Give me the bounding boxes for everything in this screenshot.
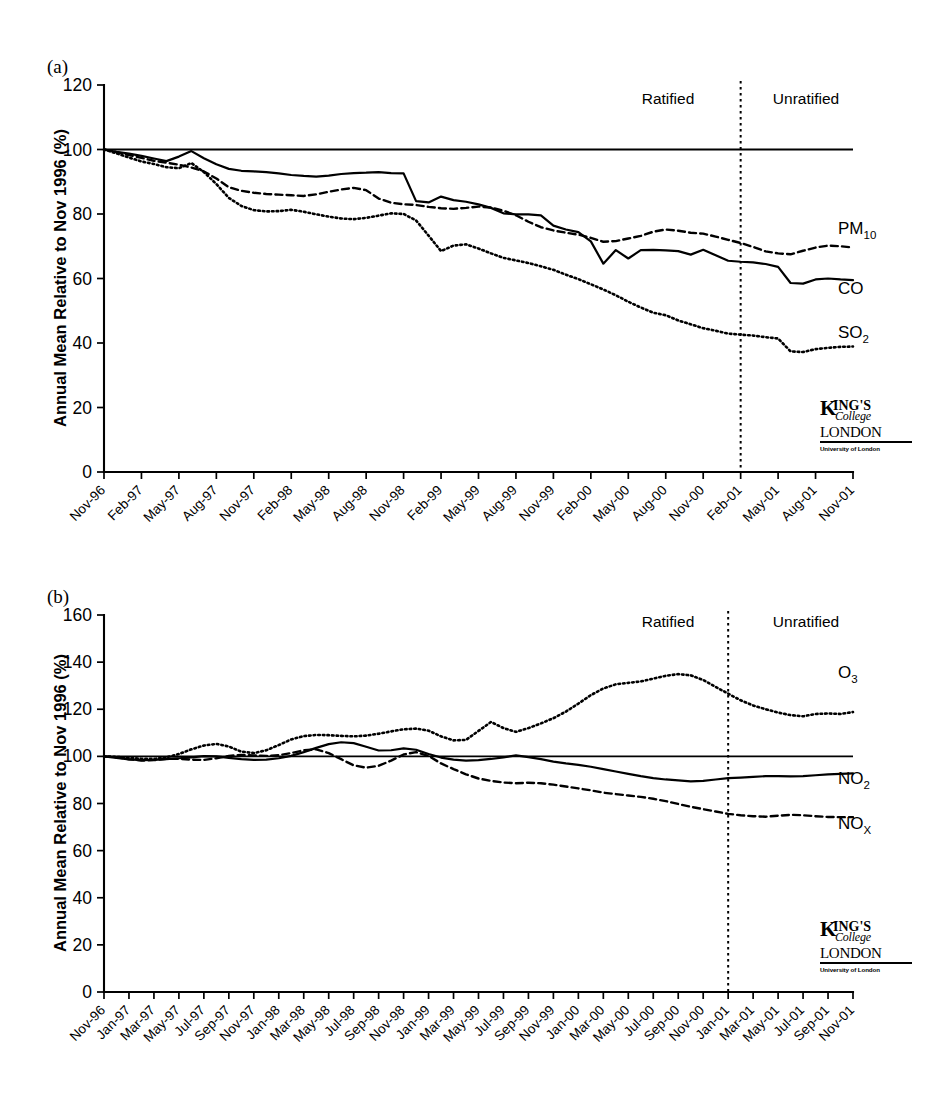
x-axis-tick-label: May-97 [141, 483, 183, 525]
chart-panel-a: (a)020406080100120Annual Mean Relative t… [0, 0, 928, 570]
x-axis-tick-label: Nov-98 [366, 483, 407, 524]
chart-a-canvas: (a)020406080100120Annual Mean Relative t… [0, 0, 928, 570]
x-axis-tick-label: May-01 [740, 483, 782, 525]
region-label-ratified: Ratified [642, 90, 695, 107]
x-axis-tick-label: Aug-01 [778, 483, 819, 524]
figure-root: (a)020406080100120Annual Mean Relative t… [0, 0, 928, 1103]
series-label-so2: SO2 [838, 323, 869, 345]
y-axis-tick-label: 20 [73, 398, 93, 418]
series-line-o3 [104, 674, 853, 759]
y-axis-tick-label: 60 [73, 841, 93, 861]
series-line-no2 [104, 742, 853, 781]
y-axis-tick-label: 160 [63, 605, 92, 625]
logo-london-text: LONDON [820, 425, 912, 443]
logo-university-text: University of London [820, 446, 912, 452]
y-axis-title: Annual Mean Relative to Nov 1996 (%) [51, 129, 69, 427]
x-axis-tick-label: May-99 [440, 483, 482, 525]
logo-college-text: College [835, 931, 871, 943]
y-axis-tick-label: 120 [63, 75, 92, 95]
series-label-no2: NO2 [838, 769, 870, 791]
series-label-co: CO [838, 279, 864, 298]
logo-london-text: LONDON [820, 946, 912, 964]
kings-college-london-logo-a: K ING'S College LONDON University of Lon… [820, 399, 912, 452]
x-axis-tick-label: May-98 [290, 483, 332, 525]
series-label-o3: O3 [838, 663, 858, 685]
y-axis-tick-label: 80 [73, 794, 93, 814]
x-axis-tick-label: Feb-01 [704, 483, 745, 524]
x-axis-tick-label: May-00 [590, 483, 632, 525]
region-label-unratified: Unratified [773, 613, 839, 630]
kings-college-london-logo-b: K ING'S College LONDON University of Lon… [820, 920, 912, 973]
x-axis-tick-label: Nov-97 [217, 483, 258, 524]
x-axis-tick-label: Nov-96 [67, 483, 108, 524]
series-line-co [104, 150, 853, 284]
region-label-unratified: Unratified [773, 90, 839, 107]
chart-b-canvas: (b)020406080100120140160Annual Mean Rela… [0, 535, 928, 1103]
logo-college-text: College [835, 410, 871, 422]
series-label-nox: NOX [838, 814, 872, 836]
region-label-ratified: Ratified [642, 613, 695, 630]
x-axis-tick-label: Feb-00 [554, 483, 595, 524]
x-axis-tick-label: Feb-98 [255, 483, 296, 524]
chart-panel-b: (b)020406080100120140160Annual Mean Rela… [0, 535, 928, 1103]
x-axis-tick-label: Feb-97 [105, 483, 146, 524]
x-axis-tick-label: Nov-00 [666, 483, 707, 524]
y-axis-tick-label: 80 [73, 204, 93, 224]
x-axis-tick-label: Aug-98 [329, 483, 370, 524]
logo-university-text: University of London [820, 967, 912, 973]
y-axis-tick-label: 40 [73, 333, 93, 353]
y-axis-tick-label: 0 [82, 982, 92, 1002]
series-label-pm10: PM10 [838, 219, 876, 241]
y-axis-tick-label: 60 [73, 269, 93, 289]
y-axis-tick-label: 40 [73, 888, 93, 908]
x-axis-tick-label: Nov-99 [516, 483, 557, 524]
y-axis-title: Annual Mean Relative to Nov 1996 (%) [51, 654, 69, 952]
x-axis-tick-label: Aug-99 [479, 483, 520, 524]
x-axis-tick-label: Aug-00 [628, 483, 669, 524]
y-axis-tick-label: 0 [82, 462, 92, 482]
x-axis-tick-label: Aug-97 [179, 483, 220, 524]
x-axis-tick-label: Nov-01 [816, 483, 857, 524]
y-axis-tick-label: 20 [73, 935, 93, 955]
x-axis-tick-label: Feb-99 [404, 483, 445, 524]
